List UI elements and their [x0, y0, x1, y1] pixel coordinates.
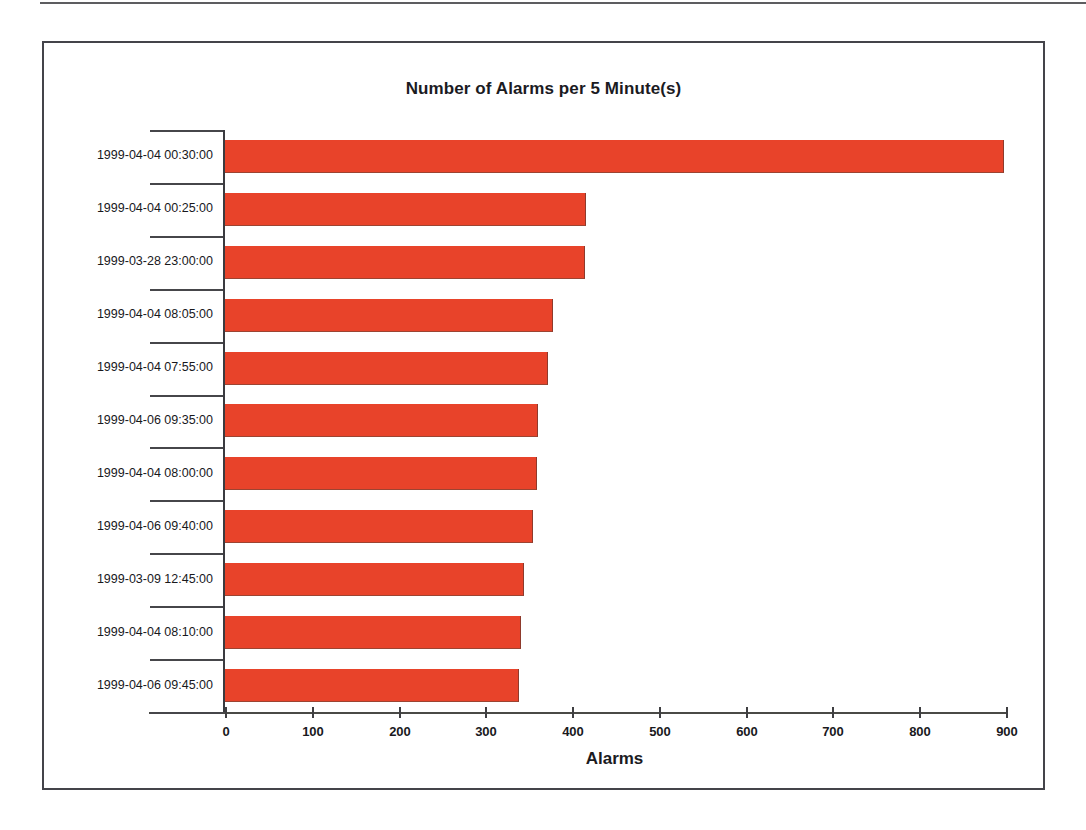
value-tick-label: 100	[283, 724, 343, 739]
bar[interactable]	[225, 352, 548, 385]
category-tick	[150, 342, 223, 344]
value-tick	[1006, 707, 1008, 718]
category-label: 1999-04-06 09:45:00	[44, 678, 213, 692]
category-tick	[150, 183, 223, 185]
value-tick	[832, 707, 834, 718]
value-tick-label: 900	[977, 724, 1037, 739]
x-axis-title: Alarms	[224, 749, 1005, 769]
category-label: 1999-04-04 00:30:00	[44, 148, 213, 162]
category-label: 1999-04-04 07:55:00	[44, 360, 213, 374]
category-tick	[150, 659, 223, 661]
value-tick	[919, 707, 921, 718]
value-axis-line	[149, 712, 1007, 714]
category-label: 1999-04-04 08:05:00	[44, 307, 213, 321]
bar[interactable]	[225, 404, 538, 437]
category-tick	[150, 712, 223, 714]
value-tick	[485, 707, 487, 718]
category-tick	[150, 500, 223, 502]
value-tick-label: 500	[630, 724, 690, 739]
category-label: 1999-04-04 08:00:00	[44, 466, 213, 480]
value-tick-label: 0	[196, 724, 256, 739]
value-tick-label: 700	[803, 724, 863, 739]
category-tick	[150, 289, 223, 291]
category-label: 1999-04-04 00:25:00	[44, 201, 213, 215]
category-label: 1999-04-04 08:10:00	[44, 625, 213, 639]
bar[interactable]	[225, 193, 586, 226]
category-label: 1999-03-09 12:45:00	[44, 572, 213, 586]
bar[interactable]	[225, 140, 1004, 173]
bar[interactable]	[225, 563, 524, 596]
value-tick-label: 600	[717, 724, 777, 739]
value-tick-label: 400	[543, 724, 603, 739]
category-label: 1999-04-06 09:40:00	[44, 519, 213, 533]
bar[interactable]	[225, 669, 519, 702]
value-tick-label: 200	[370, 724, 430, 739]
category-label: 1999-04-06 09:35:00	[44, 413, 213, 427]
category-tick	[150, 236, 223, 238]
bar[interactable]	[225, 457, 537, 490]
bar[interactable]	[225, 299, 553, 332]
category-tick	[150, 606, 223, 608]
value-tick	[746, 707, 748, 718]
category-tick	[150, 447, 223, 449]
value-tick	[399, 707, 401, 718]
bar[interactable]	[225, 510, 533, 543]
value-tick	[312, 707, 314, 718]
value-tick	[659, 707, 661, 718]
value-tick	[572, 707, 574, 718]
category-tick	[150, 553, 223, 555]
page-top-rule	[40, 2, 1086, 4]
value-tick-label: 800	[890, 724, 950, 739]
value-tick-label: 300	[456, 724, 516, 739]
chart-frame: Number of Alarms per 5 Minute(s) 1999-04…	[42, 41, 1045, 790]
category-label: 1999-03-28 23:00:00	[44, 254, 213, 268]
chart-title: Number of Alarms per 5 Minute(s)	[44, 79, 1043, 99]
bar[interactable]	[225, 616, 521, 649]
bar[interactable]	[225, 246, 585, 279]
category-tick	[150, 395, 223, 397]
category-tick	[150, 130, 223, 132]
value-tick	[225, 707, 227, 718]
